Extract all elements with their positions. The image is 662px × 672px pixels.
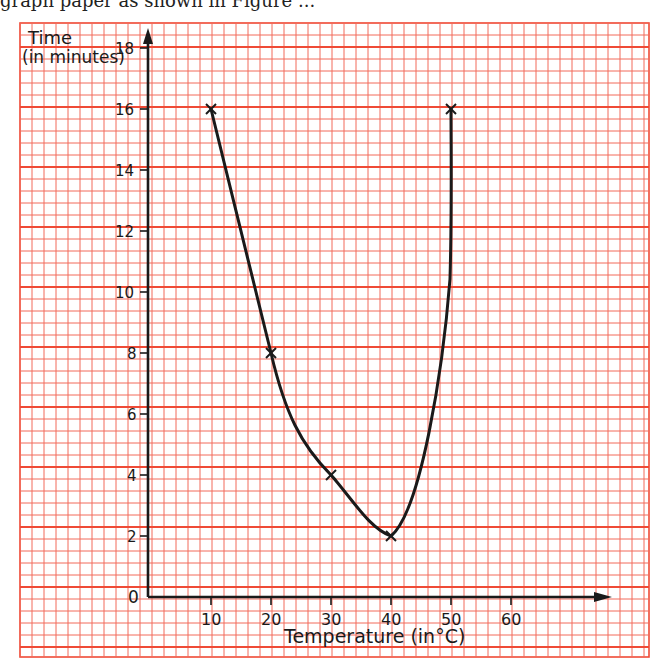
svg-text:14: 14 — [115, 162, 134, 180]
x-axis-label: Temperature (in°C) — [283, 625, 465, 647]
svg-text:8: 8 — [127, 345, 137, 363]
svg-text:4: 4 — [127, 467, 137, 485]
y-axis-label-line2: (in minutes) — [22, 47, 125, 67]
svg-text:10: 10 — [201, 610, 221, 629]
svg-text:12: 12 — [115, 223, 134, 241]
line-chart: 024681012141618102030405060 Time (in min… — [0, 0, 662, 672]
y-axis-label-line1: Time — [27, 27, 72, 48]
svg-text:6: 6 — [127, 406, 137, 424]
svg-text:60: 60 — [501, 610, 521, 629]
svg-text:10: 10 — [115, 284, 134, 302]
svg-text:20: 20 — [261, 610, 281, 629]
svg-text:0: 0 — [128, 587, 139, 607]
svg-text:2: 2 — [127, 528, 137, 546]
svg-text:16: 16 — [115, 101, 134, 119]
